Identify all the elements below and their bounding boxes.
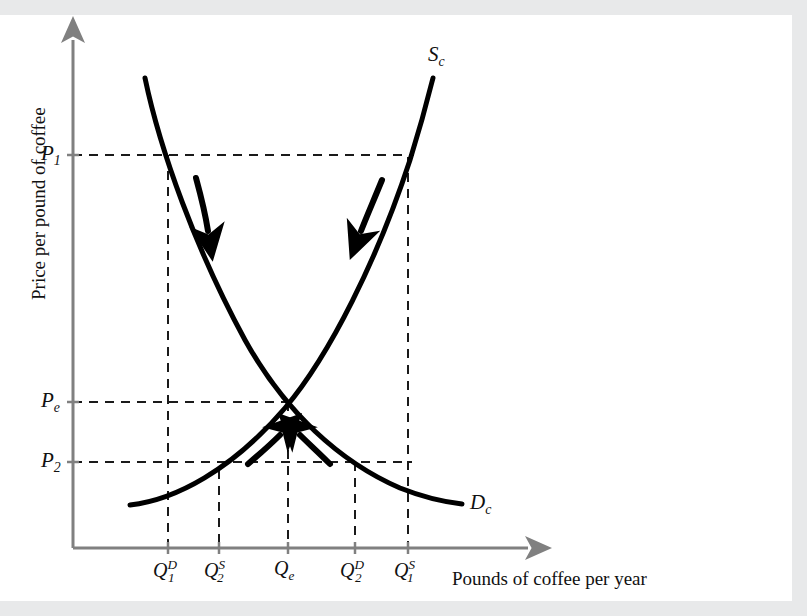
supply-demand-figure: Price per pound of coffee Pounds of coff… bbox=[0, 0, 807, 616]
demand-curve-label-sub: c bbox=[485, 502, 491, 517]
supply-curve-label-base: S bbox=[428, 42, 439, 66]
price-label-pe-base: P bbox=[41, 388, 54, 412]
x-axis-title: Pounds of coffee per year bbox=[452, 568, 647, 590]
price-label-p2-base: P bbox=[41, 448, 54, 472]
quantity-label-q2d-sub: 2 bbox=[355, 570, 362, 585]
quantity-label-q1s: QS1 bbox=[394, 558, 414, 584]
quantity-label-q1d: QD1 bbox=[153, 558, 175, 584]
supply-curve-label: Sc bbox=[428, 44, 445, 69]
quantity-label-q2s-sub: 2 bbox=[217, 570, 224, 585]
quantity-label-qe-base: Q bbox=[274, 557, 288, 579]
price-guide-lines bbox=[73, 155, 414, 462]
demand-curve-label-base: D bbox=[470, 490, 485, 514]
quantity-label-q1s-sub: 1 bbox=[407, 570, 414, 585]
quantity-label-q1d-base: Q bbox=[153, 559, 167, 581]
plot-area bbox=[0, 0, 807, 616]
quantity-label-q1d-sub: 1 bbox=[168, 570, 175, 585]
price-label-p1: P1 bbox=[41, 143, 61, 168]
quantity-label-q2d: QD2 bbox=[340, 558, 362, 584]
arrow-price-down-left bbox=[196, 178, 208, 231]
quantity-label-qe-sub: e bbox=[288, 568, 294, 583]
price-label-p2-sub: 2 bbox=[54, 460, 61, 475]
price-label-p1-sub: 1 bbox=[54, 153, 61, 168]
supply-curve bbox=[130, 78, 433, 505]
quantity-label-q2s: QS2 bbox=[204, 558, 224, 584]
quantity-label-q2d-base: Q bbox=[340, 559, 354, 581]
price-label-pe-sub: e bbox=[54, 400, 60, 415]
price-label-p2: P2 bbox=[41, 450, 61, 475]
y-axis-title: Price per pound of coffee bbox=[28, 107, 50, 300]
demand-curve-label: Dc bbox=[470, 492, 491, 517]
quantity-label-qe: Qe bbox=[274, 558, 294, 582]
arrow-price-down-right bbox=[361, 180, 382, 231]
supply-curve-label-sub: c bbox=[439, 54, 445, 69]
price-label-pe: Pe bbox=[41, 390, 60, 415]
price-label-p1-base: P bbox=[41, 141, 54, 165]
